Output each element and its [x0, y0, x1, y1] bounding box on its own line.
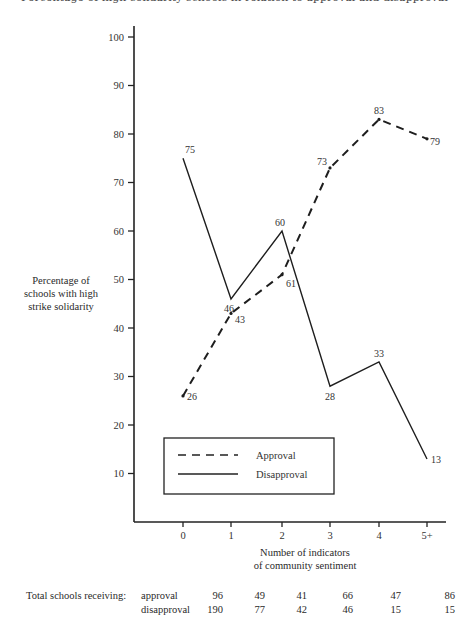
- data-point-label: 73: [317, 156, 327, 167]
- totals-cell: 46: [313, 604, 353, 615]
- legend-approval-label: Approval: [256, 450, 296, 461]
- totals-row-name: approval: [141, 590, 178, 601]
- y-tick-label: 10: [114, 468, 125, 479]
- y-tick-label: 40: [114, 323, 125, 334]
- y-label-line: strike solidarity: [2, 300, 120, 313]
- y-tick-label: 30: [114, 371, 125, 382]
- data-point-label: 61: [286, 278, 296, 289]
- y-tick-label: 100: [108, 32, 124, 43]
- totals-cell: 47: [361, 590, 401, 601]
- x-axis-ticks: 012345+: [180, 522, 432, 541]
- data-point-label: 60: [275, 217, 285, 228]
- totals-cell: 42: [267, 604, 307, 615]
- x-tick-label: 0: [180, 530, 185, 541]
- totals-cell: 49: [225, 590, 265, 601]
- totals-cell: 15: [361, 604, 401, 615]
- x-tick-label: 5+: [421, 530, 432, 541]
- y-tick-label: 20: [114, 420, 125, 431]
- totals-cell: 15: [415, 604, 455, 615]
- x-tick-label: 3: [327, 530, 332, 541]
- y-label-line: Percentage of: [2, 274, 120, 287]
- x-label-line: Number of indicators: [200, 546, 410, 559]
- x-tick-label: 1: [228, 530, 233, 541]
- x-label-line: of community sentiment: [200, 559, 410, 572]
- y-tick-label: 80: [114, 129, 125, 140]
- data-point-label: 33: [374, 348, 384, 359]
- data-point-label: 46: [224, 303, 234, 314]
- data-point-label: 79: [430, 136, 440, 147]
- disapproval-line: [183, 158, 427, 459]
- data-point-label: 28: [325, 391, 335, 402]
- totals-cell: 190: [183, 604, 223, 615]
- data-point-label: 26: [187, 391, 197, 402]
- legend-disapproval-label: Disapproval: [256, 469, 307, 480]
- totals-cell: 86: [415, 590, 455, 601]
- y-axis-ticks: 102030405060708090100: [108, 32, 134, 480]
- data-point-label: 75: [185, 144, 195, 155]
- totals-cell: 77: [225, 604, 265, 615]
- y-label-line: schools with high: [2, 287, 120, 300]
- totals-table: Total schools receiving: approval disapp…: [0, 590, 469, 630]
- y-tick-label: 70: [114, 177, 125, 188]
- data-point-label: 43: [235, 314, 245, 325]
- totals-cell: 41: [267, 590, 307, 601]
- x-tick-label: 4: [376, 530, 382, 541]
- data-point-label: 83: [374, 105, 384, 116]
- totals-cell: 96: [183, 590, 223, 601]
- totals-label: Total schools receiving:: [26, 590, 126, 601]
- data-point-label: 13: [431, 454, 441, 465]
- x-axis-label: Number of indicators of community sentim…: [200, 546, 410, 572]
- y-tick-label: 60: [114, 226, 125, 237]
- data-series: 264361738379754660283313: [181, 105, 441, 465]
- line-chart: 102030405060708090100 012345+ 2643617383…: [0, 0, 469, 632]
- x-tick-label: 2: [279, 530, 284, 541]
- y-tick-label: 90: [114, 80, 125, 91]
- totals-cell: 66: [313, 590, 353, 601]
- y-axis-label: Percentage of schools with high strike s…: [2, 274, 120, 313]
- legend: Approval Disapproval: [164, 438, 334, 494]
- approval-line: [183, 119, 427, 395]
